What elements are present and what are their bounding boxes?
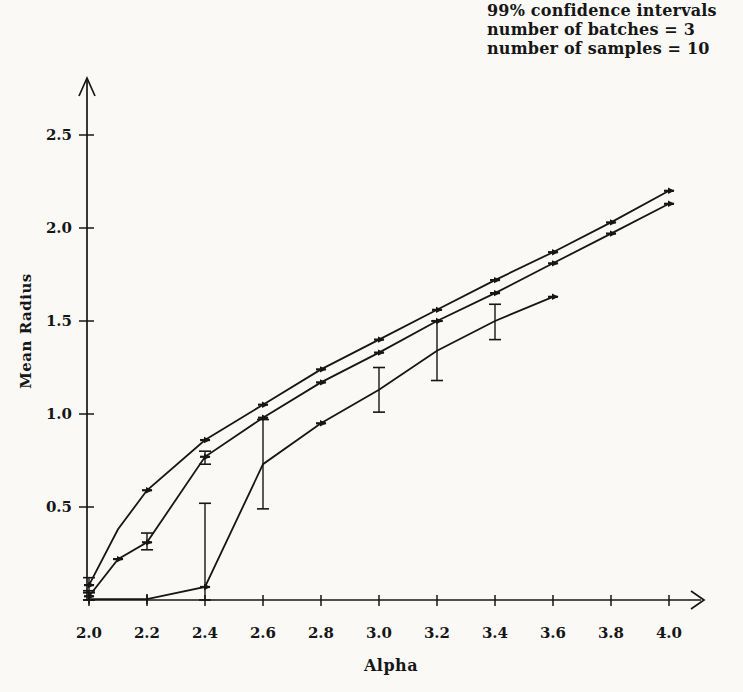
x-tick-label: 2.0 (76, 624, 102, 642)
x-tick-label: 2.6 (250, 624, 276, 642)
x-tick-label: 3.6 (540, 624, 566, 642)
lower-curve-marker-flag-icon (204, 584, 211, 590)
upper-curve-marker-flag-icon (88, 582, 95, 588)
lower-curve (89, 297, 553, 599)
plot-area: 2.02.22.42.62.83.03.23.43.63.84.00.51.01… (0, 0, 743, 692)
chart-canvas: 99% confidence intervals number of batch… (0, 0, 743, 692)
x-tick-label: 4.0 (656, 624, 682, 642)
lower-curve-marker-flag-icon (552, 294, 559, 300)
x-tick-label: 2.2 (134, 624, 160, 642)
x-tick-label: 2.4 (192, 624, 218, 642)
y-tick-label: 2.0 (46, 219, 72, 237)
y-tick-label: 2.5 (46, 126, 72, 144)
middle-curve-marker-flag-icon (668, 201, 675, 207)
y-tick-label: 1.0 (46, 405, 72, 423)
y-tick-label: 0.5 (46, 498, 72, 516)
x-tick-label: 2.8 (308, 624, 334, 642)
x-tick-label: 3.8 (598, 624, 624, 642)
x-tick-label: 3.0 (366, 624, 392, 642)
x-tick-label: 3.2 (424, 624, 450, 642)
x-tick-label: 3.4 (482, 624, 508, 642)
y-tick-label: 1.5 (46, 312, 72, 330)
upper-curve-marker-flag-icon (668, 188, 675, 194)
